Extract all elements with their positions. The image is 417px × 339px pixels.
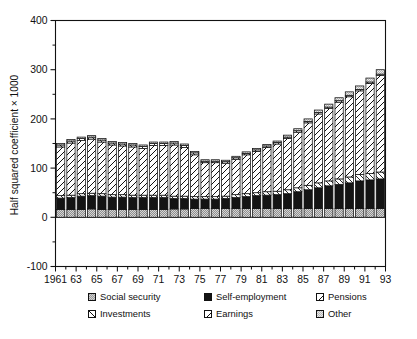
- bar-segment: [232, 198, 240, 209]
- bar-segment: [180, 199, 188, 209]
- bar-segment: [356, 208, 364, 217]
- bar-segment: [57, 209, 65, 217]
- bar-segment: [129, 144, 137, 145]
- bar-segment: [170, 209, 178, 217]
- bar-segment: [366, 208, 374, 217]
- pensions-swatch-icon: [316, 293, 324, 301]
- bar-segment: [160, 198, 168, 210]
- y-tick-label: 0: [42, 212, 48, 223]
- bar-segment: [129, 147, 137, 195]
- bar-segment: [242, 152, 250, 153]
- x-tick-label: 93: [380, 274, 392, 285]
- bar-segment: [325, 109, 333, 181]
- bar-segment: [139, 198, 147, 210]
- bar-segment: [139, 145, 147, 146]
- bar-segment: [118, 209, 126, 217]
- bar-stack: [149, 142, 157, 217]
- bar-segment: [304, 185, 312, 189]
- bar-stack: [304, 119, 312, 217]
- bar-segment: [335, 208, 343, 217]
- bar-segment: [335, 102, 343, 179]
- bar-segment: [160, 142, 168, 143]
- investments-swatch-icon: [88, 310, 96, 318]
- bar-segment: [376, 76, 384, 172]
- bar-stack: [345, 92, 353, 217]
- bar-segment: [314, 188, 322, 209]
- bar-segment: [335, 98, 343, 101]
- bar-stack: [170, 142, 178, 218]
- bar-segment: [222, 199, 230, 209]
- bar-segment: [325, 186, 333, 209]
- bar-segment: [263, 144, 271, 145]
- bar-segment: [149, 142, 157, 143]
- bar-segment: [252, 193, 260, 196]
- y-axis-title: Half squared coefficient × 1000: [9, 74, 20, 215]
- bar-segment: [139, 148, 147, 195]
- x-tick-label: 91: [359, 274, 371, 285]
- bar-segment: [242, 208, 250, 217]
- bar-segment: [67, 143, 75, 195]
- bar-segment: [345, 177, 353, 183]
- bar-segment: [108, 197, 116, 209]
- bar-stack: [108, 142, 116, 218]
- bar-stack: [376, 70, 384, 218]
- y-axis-title-text: Half squared coefficient × 1000: [9, 74, 20, 215]
- other-swatch-icon: [316, 310, 324, 318]
- bar-segment: [160, 145, 168, 195]
- bar-segment: [263, 208, 271, 217]
- bar-segment: [283, 139, 291, 190]
- bar-segment: [77, 137, 85, 138]
- bar-segment: [242, 155, 250, 194]
- bar-segment: [67, 209, 75, 217]
- bar-segment: [314, 183, 322, 188]
- x-tick-label: 75: [194, 274, 206, 285]
- bar-segment: [211, 160, 219, 161]
- bar-segment: [376, 172, 384, 179]
- bar-stack: [325, 104, 333, 217]
- bar-segment: [263, 192, 271, 195]
- x-tick-label: 65: [91, 274, 103, 285]
- bar-segment: [283, 135, 291, 137]
- y-tick-label: -100: [27, 261, 48, 272]
- bar-segment: [201, 160, 209, 161]
- legend-item-social-security: Social security: [88, 292, 204, 302]
- bar-segment: [98, 139, 106, 140]
- bar-segment: [325, 181, 333, 186]
- x-tick-label: 1961: [44, 274, 67, 285]
- bar-segment: [98, 196, 106, 209]
- legend-item-pensions: Pensions: [316, 292, 388, 302]
- bar-segment: [366, 180, 374, 209]
- x-tick-label: 85: [297, 274, 309, 285]
- x-axis: 196163656769717375777981838587899193: [44, 267, 392, 286]
- bar-stack: [118, 143, 126, 218]
- x-tick-label: 79: [235, 274, 247, 285]
- bar-segment: [149, 209, 157, 217]
- bar-segment: [201, 163, 209, 197]
- bar-segment: [335, 184, 343, 208]
- x-tick-label: 71: [153, 274, 165, 285]
- bar-segment: [242, 194, 250, 197]
- bar-stack: [242, 152, 250, 217]
- legend-item-self-employment: Self-employment: [204, 292, 316, 302]
- bar-segment: [252, 196, 260, 209]
- bar-segment: [366, 83, 374, 173]
- bar-segment: [294, 208, 302, 217]
- bar-segment: [232, 208, 240, 217]
- bar-segment: [273, 141, 281, 142]
- legend-label-other: Other: [328, 309, 351, 319]
- bar-stack: [356, 86, 364, 217]
- bar-stack: [77, 137, 85, 217]
- bar-segment: [273, 208, 281, 217]
- x-tick-label: 87: [318, 274, 330, 285]
- bar-segment: [139, 209, 147, 217]
- bar-segment: [98, 209, 106, 217]
- bar-segment: [87, 209, 95, 217]
- earnings-swatch-icon: [204, 310, 212, 318]
- x-tick-label: 77: [215, 274, 227, 285]
- bar-segment: [273, 191, 281, 194]
- chart-figure: -1000100200300400 1961636567697173757779…: [0, 0, 417, 339]
- bar-segment: [108, 142, 116, 143]
- bar-segment: [263, 195, 271, 208]
- bar-series-group: [57, 70, 385, 218]
- bar-segment: [149, 198, 157, 210]
